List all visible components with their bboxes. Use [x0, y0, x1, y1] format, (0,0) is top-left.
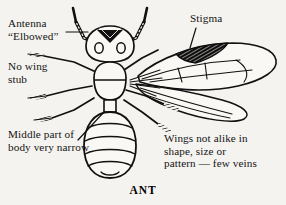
ant-diagram-figure: Antenna “Elbowed” No wing stub Middle pa… — [0, 0, 286, 205]
figure-caption: ANT — [0, 184, 286, 196]
thorax — [94, 62, 126, 100]
petiole — [104, 100, 116, 112]
stigma-leader-line — [190, 28, 196, 48]
label-stigma: Stigma — [190, 12, 222, 25]
head — [86, 26, 134, 62]
label-no-wing-stub: No wing stub — [8, 60, 48, 85]
label-middle-body: Middle part of body very narrow — [8, 128, 89, 153]
abdomen — [84, 112, 136, 178]
label-antenna: Antenna “Elbowed” — [8, 17, 59, 42]
leg-left-2 — [28, 86, 92, 98]
eye-right — [117, 43, 125, 53]
eye-left — [95, 43, 103, 53]
label-wings: Wings not alike in shape, size or patter… — [164, 132, 257, 170]
leg-left-3 — [34, 98, 94, 120]
